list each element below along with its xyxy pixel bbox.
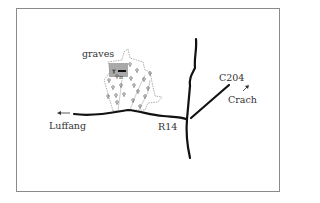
arrow-left-icon [57,111,70,115]
label-graves: graves [82,49,114,59]
label-r14: R14 [158,122,177,132]
label-crach: Crach [228,95,257,105]
graves-area: ╥ π [109,63,128,80]
road-r14 [74,110,186,119]
svg-text:π: π [119,73,123,80]
svg-text:╥: ╥ [111,66,116,74]
label-luffang: Luffang [49,121,86,131]
road-north-south [186,39,196,158]
road-c204 [191,85,229,118]
arrow-up-right-icon [243,85,249,91]
label-c204: C204 [219,73,244,83]
